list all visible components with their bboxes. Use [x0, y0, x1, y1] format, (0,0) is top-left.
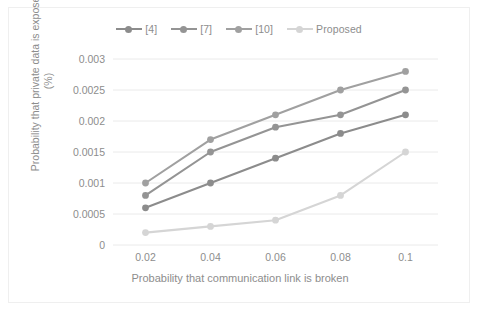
- legend-marker-icon: [116, 24, 142, 34]
- data-point-s2-p1: [207, 136, 214, 143]
- data-point-s3-p4: [402, 149, 409, 156]
- x-axis-tick-labels: 0.020.040.060.080.1: [113, 251, 438, 267]
- data-point-s1-p2: [272, 124, 279, 131]
- legend-marker-icon: [287, 24, 313, 34]
- plot-area: [113, 59, 438, 245]
- data-point-s2-p3: [337, 87, 344, 94]
- series-line-1: [146, 90, 406, 195]
- x-tick-label-1: 0.04: [200, 251, 220, 263]
- x-tick-label-4: 0.1: [398, 251, 413, 263]
- data-point-s2-p4: [402, 68, 409, 75]
- data-point-s0-p3: [337, 130, 344, 137]
- y-tick-label-1: 0.0005: [73, 208, 105, 220]
- legend-marker-icon: [171, 24, 197, 34]
- data-point-s3-p0: [142, 229, 149, 236]
- x-axis-title: Probability that communication link is b…: [9, 272, 471, 284]
- x-tick-label-0: 0.02: [135, 251, 155, 263]
- legend-dot-ref10: [235, 26, 242, 33]
- chart-legend: [4] [7] [10] Proposed: [9, 23, 469, 35]
- data-point-s1-p3: [337, 111, 344, 118]
- data-point-s0-p2: [272, 155, 279, 162]
- y-axis-tick-labels: 00.00050.0010.00150.0020.00250.003: [49, 59, 109, 245]
- legend-label-proposed: Proposed: [316, 23, 362, 35]
- y-tick-label-0: 0: [99, 239, 105, 251]
- y-tick-label-3: 0.0015: [73, 146, 105, 158]
- x-tick-label-3: 0.08: [330, 251, 350, 263]
- data-point-s3-p1: [207, 223, 214, 230]
- legend-dot-proposed: [296, 26, 303, 33]
- y-axis-title-line1: Probability that private data is exposed: [29, 0, 41, 171]
- data-point-s0-p4: [402, 111, 409, 118]
- y-tick-label-4: 0.002: [79, 115, 105, 127]
- legend-dot-ref7: [180, 26, 187, 33]
- data-point-s2-p2: [272, 111, 279, 118]
- y-tick-label-5: 0.0025: [73, 84, 105, 96]
- y-tick-label-2: 0.001: [79, 177, 105, 189]
- legend-dot-ref4: [125, 26, 132, 33]
- data-point-s1-p4: [402, 87, 409, 94]
- legend-item-ref7[interactable]: [7]: [171, 23, 212, 35]
- y-tick-label-6: 0.003: [79, 53, 105, 65]
- chart-svg: [113, 59, 438, 245]
- legend-label-ref10: [10]: [255, 23, 273, 35]
- chart-container: [4] [7] [10] Proposed Probability tha: [8, 7, 470, 303]
- data-point-s3-p3: [337, 192, 344, 199]
- data-point-s2-p0: [142, 180, 149, 187]
- legend-marker-icon: [226, 24, 252, 34]
- data-point-s0-p1: [207, 180, 214, 187]
- x-tick-label-2: 0.06: [265, 251, 285, 263]
- legend-item-ref4[interactable]: [4]: [116, 23, 157, 35]
- data-point-s1-p1: [207, 149, 214, 156]
- legend-item-ref10[interactable]: [10]: [226, 23, 273, 35]
- data-point-s3-p2: [272, 217, 279, 224]
- data-point-s1-p0: [142, 192, 149, 199]
- data-point-s0-p0: [142, 204, 149, 211]
- legend-label-ref7: [7]: [200, 23, 212, 35]
- legend-label-ref4: [4]: [145, 23, 157, 35]
- legend-item-proposed[interactable]: Proposed: [287, 23, 362, 35]
